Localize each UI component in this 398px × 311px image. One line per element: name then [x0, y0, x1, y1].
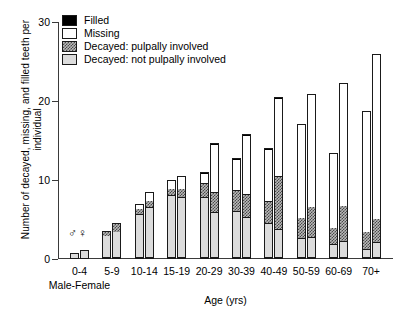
bar-female-20-29[interactable] — [210, 143, 219, 259]
segment-missing — [168, 181, 175, 189]
segment-nopulp — [340, 242, 347, 258]
y-tick-30 — [52, 22, 58, 23]
sex-symbols: ♂♀ — [68, 227, 88, 239]
segment-missing — [146, 193, 153, 201]
x-tick-label-10-14: 10-14 — [131, 265, 158, 277]
segment-nopulp — [308, 238, 315, 258]
x-tick-label-0-4: 0-4 — [72, 265, 87, 277]
y-tick-0 — [52, 259, 58, 260]
segment-nopulp — [178, 198, 185, 258]
segment-missing — [340, 84, 347, 207]
segment-nopulp — [330, 245, 337, 258]
segment-pulp — [168, 189, 175, 197]
chart-root: Number of decayed, missing, and filled t… — [0, 0, 398, 311]
segment-pulp — [178, 189, 185, 198]
segment-pulp — [340, 206, 347, 242]
segment-pulp — [146, 201, 153, 209]
bar-female-0-4[interactable] — [80, 250, 89, 259]
segment-missing — [201, 174, 208, 184]
bar-male-50-59[interactable] — [297, 124, 306, 259]
y-tick-label-0: 0 — [44, 254, 50, 265]
bar-group-5-9 — [102, 223, 121, 259]
segment-pulp — [298, 218, 305, 239]
segment-missing — [363, 112, 370, 232]
bar-female-70+[interactable] — [372, 54, 381, 259]
x-tick-label-15-19: 15-19 — [163, 265, 190, 277]
x-tick-label-40-49: 40-49 — [260, 265, 287, 277]
segment-nopulp — [243, 218, 250, 258]
segment-missing — [275, 99, 282, 177]
bar-group-30-39 — [232, 134, 251, 259]
bar-male-15-19[interactable] — [167, 180, 176, 259]
x-tick-label-60-69: 60-69 — [325, 265, 352, 277]
x-axis-title: Age (yrs) — [58, 294, 393, 306]
segment-missing — [308, 95, 315, 207]
bar-male-40-49[interactable] — [264, 148, 273, 259]
segment-nopulp — [136, 215, 143, 258]
segment-nopulp — [275, 230, 282, 258]
x-tick-label-50-59: 50-59 — [293, 265, 320, 277]
segment-nopulp — [265, 224, 272, 258]
bar-female-50-59[interactable] — [307, 94, 316, 259]
segment-pulp — [373, 219, 380, 243]
x-tick-label-70+: 70+ — [362, 265, 380, 277]
segment-nopulp — [201, 198, 208, 258]
segment-nopulp — [363, 250, 370, 258]
segment-missing — [330, 154, 337, 228]
segment-pulp — [275, 177, 282, 230]
segment-missing — [233, 160, 240, 191]
bar-group-10-14 — [135, 192, 154, 259]
bar-male-30-39[interactable] — [232, 158, 241, 259]
y-tick-20 — [52, 101, 58, 102]
y-tick-label-20: 20 — [38, 96, 50, 107]
segment-pulp — [363, 232, 370, 250]
plot-area: 0102030 0-45-910-1415-1920-2930-3940-495… — [58, 22, 393, 259]
segment-nopulp — [71, 254, 78, 258]
segment-pulp — [233, 191, 240, 211]
segment-pulp — [113, 224, 120, 231]
y-axis-line — [58, 22, 59, 259]
segment-pulp — [201, 184, 208, 198]
segment-missing — [211, 145, 218, 193]
segment-nopulp — [81, 251, 88, 258]
bar-male-0-4[interactable] — [70, 253, 79, 259]
bar-group-70+ — [362, 54, 381, 259]
y-tick-label-10: 10 — [38, 175, 50, 186]
bar-group-60-69 — [329, 83, 348, 259]
bar-female-5-9[interactable] — [112, 223, 121, 259]
bar-male-20-29[interactable] — [200, 172, 209, 259]
y-axis-title: Number of decayed, missing, and filled t… — [20, 15, 43, 245]
y-tick-label-30: 30 — [38, 17, 50, 28]
segment-pulp — [308, 207, 315, 238]
segment-nopulp — [373, 243, 380, 258]
segment-missing — [373, 55, 380, 219]
bar-male-70+[interactable] — [362, 111, 371, 259]
bar-group-0-4 — [70, 250, 89, 259]
segment-missing — [243, 136, 250, 195]
segment-missing — [178, 177, 185, 189]
bar-group-15-19 — [167, 176, 186, 259]
segment-nopulp — [146, 208, 153, 258]
bar-female-10-14[interactable] — [145, 192, 154, 259]
bar-male-5-9[interactable] — [102, 231, 111, 259]
male-female-annotation: Male-Female — [49, 279, 110, 291]
bar-group-50-59 — [297, 94, 316, 259]
x-tick-label-30-39: 30-39 — [228, 265, 255, 277]
bar-female-60-69[interactable] — [339, 83, 348, 259]
bar-female-30-39[interactable] — [242, 134, 251, 259]
segment-missing — [265, 150, 272, 202]
segment-pulp — [330, 228, 337, 245]
segment-nopulp — [298, 239, 305, 258]
y-tick-10 — [52, 180, 58, 181]
segment-pulp — [265, 202, 272, 224]
bar-male-60-69[interactable] — [329, 153, 338, 259]
bar-female-40-49[interactable] — [274, 97, 283, 259]
bar-male-10-14[interactable] — [135, 204, 144, 259]
segment-nopulp — [233, 212, 240, 258]
segment-nopulp — [113, 232, 120, 258]
x-tick-label-5-9: 5-9 — [104, 265, 119, 277]
bar-group-20-29 — [200, 143, 219, 259]
segment-pulp — [211, 193, 218, 213]
segment-nopulp — [211, 213, 218, 258]
bar-female-15-19[interactable] — [177, 176, 186, 259]
